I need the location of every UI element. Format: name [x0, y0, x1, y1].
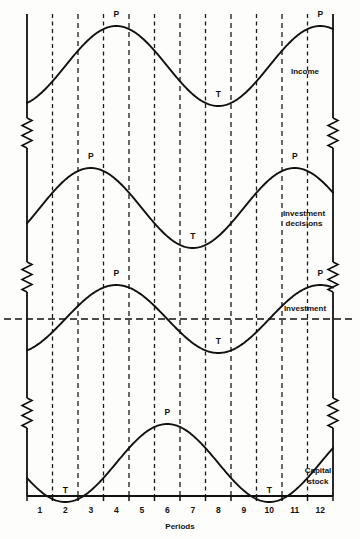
axis-break-icon	[22, 398, 32, 428]
x-tick-label-9: 9	[241, 505, 246, 515]
series-label-investment-decisions: Investment	[283, 209, 326, 218]
marker-peak-p3: P	[88, 151, 94, 161]
curve-income	[27, 26, 333, 106]
curve-capital-stock	[27, 424, 333, 502]
marker-trough-p2: T	[63, 485, 69, 495]
series-label-capital-stock: Capital	[305, 466, 332, 475]
x-tick-label-6: 6	[165, 505, 170, 515]
figure-container: 123456789101112PeriodsPTPPTPPTPTPTIncome…	[0, 0, 360, 539]
marker-peak-p12: P	[317, 268, 323, 278]
x-axis-label: Periods	[165, 522, 195, 531]
marker-trough-p7: T	[190, 231, 196, 241]
axis-break-icon	[328, 118, 338, 148]
axis-break-icon	[328, 398, 338, 428]
marker-trough-p8: T	[216, 89, 222, 99]
marker-trough-p8: T	[216, 336, 222, 346]
marker-peak-p4: P	[113, 268, 119, 278]
series-label-investment: Investment	[284, 304, 327, 313]
marker-peak-p6: P	[164, 407, 170, 417]
x-tick-label-4: 4	[114, 505, 119, 515]
series-label-investment-decisions-2: decisions	[286, 219, 323, 228]
x-tick-label-2: 2	[63, 505, 68, 515]
x-tick-label-1: 1	[37, 505, 42, 515]
x-tick-label-12: 12	[316, 505, 326, 515]
x-tick-label-8: 8	[216, 505, 221, 515]
series-label-capital-stock-2: stock	[308, 477, 329, 486]
x-tick-label-10: 10	[265, 505, 275, 515]
series-label-income: Income	[291, 67, 320, 76]
marker-peak-p4: P	[113, 9, 119, 19]
business-cycle-chart: 123456789101112PeriodsPTPPTPPTPTPTIncome…	[0, 0, 360, 539]
x-tick-label-3: 3	[88, 505, 93, 515]
marker-peak-p11: P	[292, 151, 298, 161]
axis-break-icon	[22, 262, 32, 292]
axis-break-icon	[22, 118, 32, 148]
marker-peak-p12: P	[317, 9, 323, 19]
x-tick-label-11: 11	[290, 505, 299, 515]
marker-trough-p10: T	[267, 485, 273, 495]
x-tick-label-5: 5	[139, 505, 144, 515]
x-tick-label-7: 7	[190, 505, 195, 515]
